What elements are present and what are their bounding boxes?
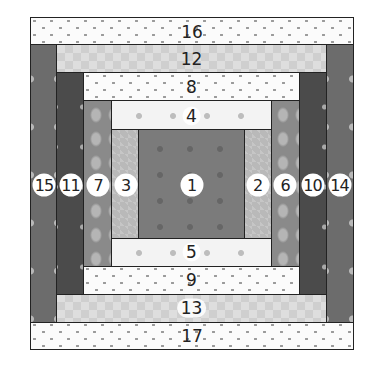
strip-16: 16 [30,17,354,46]
center-block-1: 1 [138,129,245,239]
strip-label-3: 3 [114,174,137,197]
strip-label-12: 12 [177,50,207,69]
strip-label-1: 1 [180,174,203,197]
strip-label-7: 7 [87,174,110,197]
strip-label-10: 10 [301,174,324,197]
strip-label-4: 4 [182,106,201,125]
strip-7: 7 [83,100,113,267]
strip-label-11: 11 [59,174,82,197]
strip-label-14: 14 [328,174,351,197]
strip-label-6: 6 [274,174,297,197]
strip-12: 12 [56,44,327,74]
strip-label-17: 17 [177,326,207,345]
strip-label-2: 2 [246,174,269,197]
log-cabin-block: 16 17 15 14 12 13 11 10 8 9 7 6 4 5 3 [0,0,371,369]
strip-5: 5 [111,237,272,267]
strip-label-13: 13 [177,299,207,318]
strip-label-5: 5 [182,243,201,262]
strip-17: 17 [30,321,354,350]
strip-15: 15 [30,44,58,323]
strip-label-15: 15 [33,174,56,197]
strip-9: 9 [83,265,300,295]
strip-8: 8 [83,72,300,102]
strip-label-9: 9 [182,271,201,290]
strip-label-16: 16 [177,22,207,41]
strip-11: 11 [56,72,85,295]
strip-10: 10 [298,72,327,295]
strip-2: 2 [243,129,272,239]
strip-13: 13 [56,293,327,323]
strip-4: 4 [111,100,272,131]
strip-3: 3 [111,129,140,239]
strip-6: 6 [270,100,300,267]
strip-14: 14 [325,44,354,323]
strip-label-8: 8 [182,78,201,97]
